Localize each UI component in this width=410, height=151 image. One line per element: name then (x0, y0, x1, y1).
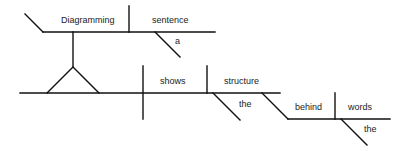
preposition-line (262, 93, 288, 119)
word-behind: behind (295, 102, 322, 112)
word-diagramming: Diagramming (61, 15, 115, 25)
word-the: the (239, 99, 252, 109)
word-words: words (348, 102, 372, 112)
word-sentence: sentence (152, 15, 189, 25)
word-the-2: the (364, 124, 377, 134)
word-structure: structure (224, 76, 259, 86)
pedestal-fork (47, 67, 99, 93)
word-a: a (175, 36, 180, 46)
modifier-the-line (213, 93, 240, 120)
gerund-step-line (25, 14, 43, 32)
word-shows: shows (160, 76, 186, 86)
